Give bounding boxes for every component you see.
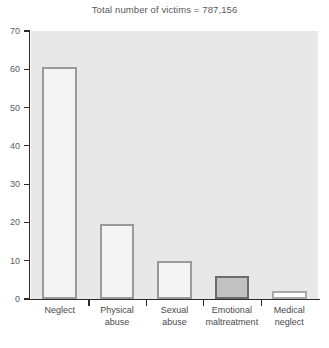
- y-axis-tick: [24, 184, 30, 185]
- bar-medical-neglect[interactable]: [272, 291, 306, 299]
- category-label: Physical abuse: [88, 305, 145, 328]
- y-axis-tick: [24, 260, 30, 261]
- category-label: Emotional maltreatment: [203, 305, 260, 328]
- y-axis-tick: [24, 107, 30, 108]
- bar-physical-abuse[interactable]: [100, 224, 134, 299]
- chart-title: Total number of victims = 787,156: [0, 4, 329, 15]
- bar-chart: Total number of victims = 787,156 010203…: [0, 0, 329, 348]
- y-axis-tick: [24, 298, 30, 299]
- category-label: Neglect: [31, 305, 88, 317]
- bar-neglect[interactable]: [42, 67, 76, 299]
- y-axis-tick-label: 70: [10, 26, 20, 36]
- bar-emotional-maltreatment[interactable]: [215, 276, 249, 299]
- y-axis-tick-label: 0: [15, 294, 20, 304]
- y-axis-line: [29, 31, 30, 299]
- y-axis-tick: [24, 30, 30, 31]
- y-axis-tick-label: 50: [10, 103, 20, 113]
- y-axis-tick-label: 20: [10, 217, 20, 227]
- y-axis-tick-label: 10: [10, 256, 20, 266]
- x-axis-line: [29, 299, 320, 300]
- y-axis-tick: [24, 69, 30, 70]
- bar-sexual-abuse[interactable]: [157, 261, 191, 299]
- y-axis-tick-label: 40: [10, 141, 20, 151]
- category-label: Sexual abuse: [146, 305, 203, 328]
- y-axis-tick: [24, 222, 30, 223]
- category-label: Medical neglect: [261, 305, 318, 328]
- y-axis-tick-label: 60: [10, 64, 20, 74]
- y-axis-tick: [24, 145, 30, 146]
- y-axis-tick-label: 30: [10, 179, 20, 189]
